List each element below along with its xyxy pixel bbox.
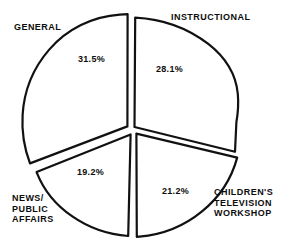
pie-slice-instructional[interactable]	[135, 18, 239, 152]
slice-value-news-public-affairs: 19.2%	[77, 167, 104, 177]
slice-value-general: 31.5%	[78, 54, 105, 64]
slice-value-instructional: 28.1%	[156, 64, 183, 74]
slice-label-general: GENERAL	[14, 22, 61, 33]
slice-label-news-public-affairs: NEWS/ PUBLIC AFFAIRS	[12, 193, 54, 225]
slice-label-instructional: INSTRUCTIONAL	[171, 12, 250, 23]
slice-label-childrens-television-workshop: CHILDREN'S TELEVISION WORKSHOP	[214, 187, 273, 219]
slice-value-childrens-television-workshop: 21.2%	[162, 186, 189, 196]
pie-chart: GENERAL INSTRUCTIONAL CHILDREN'S TELEVIS…	[0, 0, 287, 251]
